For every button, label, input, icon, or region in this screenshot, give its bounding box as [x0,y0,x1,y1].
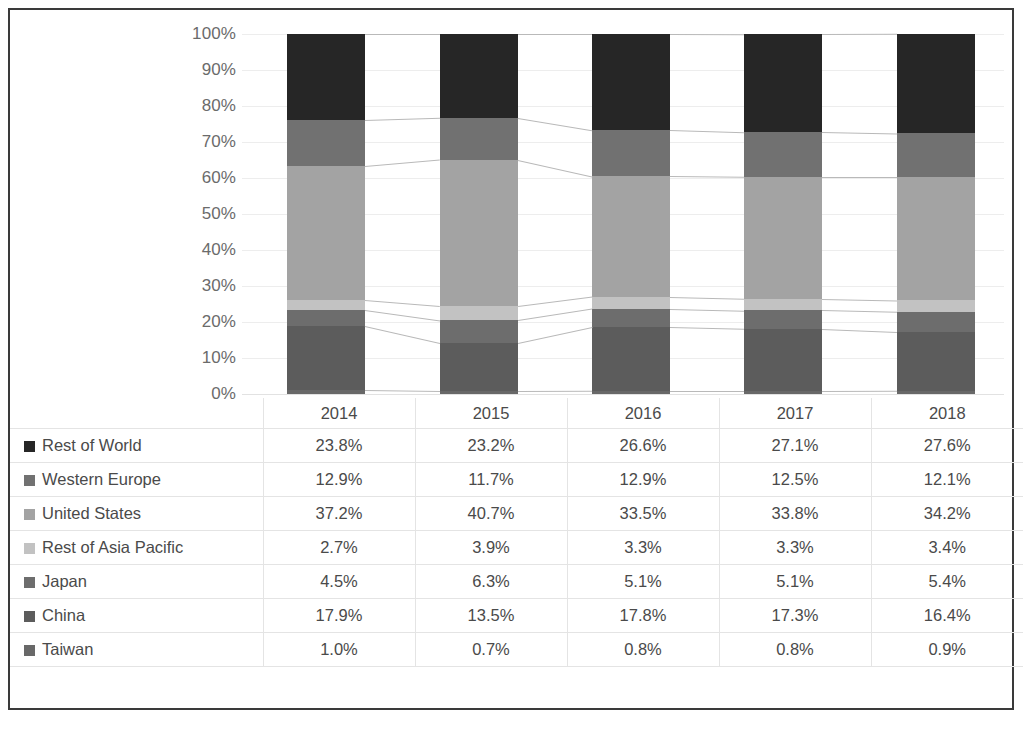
table-corner-cell [10,398,263,429]
bar-segment-taiwan-2016[interactable] [592,391,670,394]
table-cell-western-europe-2014: 12.9% [263,463,415,497]
bar-segment-taiwan-2017[interactable] [744,391,822,394]
bar-2017[interactable] [744,34,822,394]
y-axis-tick-90: 90% [176,60,236,80]
table-row: Rest of Asia Pacific2.7%3.9%3.3%3.3%3.4% [10,531,1023,565]
bar-segment-taiwan-2018[interactable] [897,391,975,394]
table-cell-rest-of-asia-pacific-2017: 3.3% [719,531,871,565]
connector-line-china-2017-2018 [822,329,897,333]
table-cell-taiwan-2014: 1.0% [263,633,415,667]
connector-line-western-europe-2015-2016 [518,118,592,131]
bar-segment-japan-2014[interactable] [287,310,365,326]
table-cell-taiwan-2017: 0.8% [719,633,871,667]
bar-segment-western-europe-2017[interactable] [744,132,822,177]
bar-segment-rest-of-world-2016[interactable] [592,34,670,130]
table-cell-taiwan-2018: 0.9% [871,633,1023,667]
table-cell-china-2014: 17.9% [263,599,415,633]
table-column-header-2015: 2015 [415,398,567,429]
table-cell-rest-of-asia-pacific-2015: 3.9% [415,531,567,565]
bar-2018[interactable] [897,34,975,394]
table-cell-rest-of-world-2015: 23.2% [415,429,567,463]
bar-segment-rest-of-world-2014[interactable] [287,34,365,120]
y-axis-tick-60: 60% [176,168,236,188]
legend-item-label: Taiwan [42,640,93,659]
bar-segment-western-europe-2018[interactable] [897,133,975,177]
legend-swatch-icon [24,645,35,656]
table-cell-western-europe-2017: 12.5% [719,463,871,497]
bar-segment-taiwan-2014[interactable] [287,390,365,394]
connector-line-china-2014-2015 [365,326,440,344]
bar-segment-united-states-2017[interactable] [744,177,822,299]
table-cell-rest-of-world-2017: 27.1% [719,429,871,463]
connector-line-united-states-2014-2015 [365,160,440,167]
connector-line-japan-2014-2015 [365,310,440,321]
legend-item-united-states[interactable]: United States [10,497,263,531]
y-axis-tick-30: 30% [176,276,236,296]
bar-segment-taiwan-2015[interactable] [440,391,518,394]
bar-segment-china-2016[interactable] [592,327,670,391]
bar-segment-japan-2016[interactable] [592,309,670,327]
table-cell-united-states-2014: 37.2% [263,497,415,531]
connector-line-japan-2016-2017 [670,309,744,312]
table-body: Rest of World23.8%23.2%26.6%27.1%27.6%We… [10,429,1023,667]
table-cell-japan-2017: 5.1% [719,565,871,599]
table-cell-china-2015: 13.5% [415,599,567,633]
table-cell-china-2016: 17.8% [567,599,719,633]
table-cell-japan-2016: 5.1% [567,565,719,599]
table-column-header-2016: 2016 [567,398,719,429]
connector-line-taiwan-2014-2015 [365,390,440,392]
bar-segment-rest-of-world-2015[interactable] [440,34,518,118]
bar-2014[interactable] [287,34,365,394]
bar-segment-united-states-2016[interactable] [592,176,670,297]
legend-item-rest-of-asia-pacific[interactable]: Rest of Asia Pacific [10,531,263,565]
bar-segment-japan-2015[interactable] [440,320,518,343]
legend-swatch-icon [24,441,35,452]
y-axis-tick-80: 80% [176,96,236,116]
bar-segment-japan-2017[interactable] [744,310,822,328]
legend-item-label: United States [42,504,141,523]
legend-swatch-icon [24,475,35,486]
table-header-row: 20142015201620172018 [10,398,1023,429]
bar-segment-rest-of-world-2018[interactable] [897,34,975,133]
y-axis-labels: 100%90%80%70%60%50%40%30%20%10%0% [170,10,236,398]
legend-item-western-europe[interactable]: Western Europe [10,463,263,497]
bar-segment-china-2014[interactable] [287,326,365,390]
table-cell-japan-2014: 4.5% [263,565,415,599]
bar-segment-rest-of-world-2017[interactable] [744,34,822,132]
table-cell-rest-of-asia-pacific-2014: 2.7% [263,531,415,565]
connector-line-china-2015-2016 [518,327,592,344]
legend-item-japan[interactable]: Japan [10,565,263,599]
bar-2015[interactable] [440,34,518,394]
bar-segment-western-europe-2014[interactable] [287,120,365,166]
bar-segment-rest-of-asia-pacific-2017[interactable] [744,299,822,311]
bar-segment-united-states-2018[interactable] [897,177,975,300]
bar-segment-united-states-2014[interactable] [287,166,365,300]
table-cell-taiwan-2016: 0.8% [567,633,719,667]
legend-swatch-icon [24,611,35,622]
bar-segment-rest-of-asia-pacific-2015[interactable] [440,306,518,320]
bar-2016[interactable] [592,34,670,394]
bar-segment-rest-of-asia-pacific-2018[interactable] [897,300,975,312]
bar-segment-rest-of-asia-pacific-2014[interactable] [287,300,365,310]
bar-segment-china-2018[interactable] [897,332,975,391]
table-column-header-2017: 2017 [719,398,871,429]
table-row: United States37.2%40.7%33.5%33.8%34.2% [10,497,1023,531]
table-row: Taiwan1.0%0.7%0.8%0.8%0.9% [10,633,1023,667]
plot-area [242,10,1004,398]
table-cell-china-2018: 16.4% [871,599,1023,633]
bar-segment-china-2017[interactable] [744,329,822,391]
legend-item-taiwan[interactable]: Taiwan [10,633,263,667]
connector-line-taiwan-2016-2017 [670,391,744,392]
bar-segment-united-states-2015[interactable] [440,160,518,307]
bar-segment-rest-of-asia-pacific-2016[interactable] [592,297,670,309]
legend-item-china[interactable]: China [10,599,263,633]
table-cell-western-europe-2015: 11.7% [415,463,567,497]
table-cell-rest-of-world-2018: 27.6% [871,429,1023,463]
connector-line-japan-2017-2018 [822,310,897,313]
bar-segment-china-2015[interactable] [440,343,518,392]
legend-item-rest-of-world[interactable]: Rest of World [10,429,263,463]
bar-segment-japan-2018[interactable] [897,312,975,331]
bar-segment-western-europe-2015[interactable] [440,118,518,160]
y-axis-tick-40: 40% [176,240,236,260]
bar-segment-western-europe-2016[interactable] [592,130,670,176]
